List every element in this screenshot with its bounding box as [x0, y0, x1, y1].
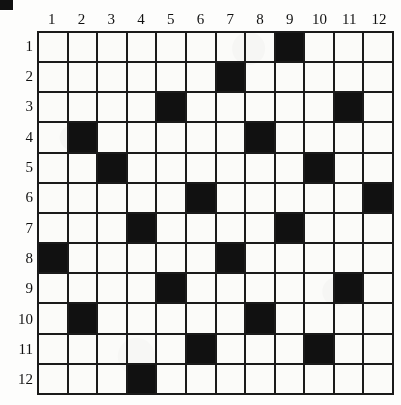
grid-cell-r8-c1[interactable]: [39, 244, 69, 274]
grid-cell-r12-c2[interactable]: [69, 365, 99, 395]
grid-cell-r6-c5[interactable]: [157, 184, 187, 214]
grid-cell-r7-c3[interactable]: [98, 214, 128, 244]
grid-cell-r6-c11[interactable]: [335, 184, 365, 214]
grid-cell-r7-c7[interactable]: [217, 214, 247, 244]
grid-cell-r7-c4[interactable]: [128, 214, 158, 244]
grid-cell-r6-c10[interactable]: [305, 184, 335, 214]
grid-cell-r11-c4[interactable]: [128, 335, 158, 365]
grid-cell-r5-c10[interactable]: [305, 154, 335, 184]
grid-cell-r3-c8[interactable]: [246, 93, 276, 123]
grid-cell-r11-c3[interactable]: [98, 335, 128, 365]
grid-cell-r6-c7[interactable]: [217, 184, 247, 214]
grid-cell-r8-c11[interactable]: [335, 244, 365, 274]
grid-cell-r10-c3[interactable]: [98, 304, 128, 334]
grid-cell-r8-c5[interactable]: [157, 244, 187, 274]
grid-cell-r1-c12[interactable]: [364, 33, 394, 63]
grid-cell-r8-c8[interactable]: [246, 244, 276, 274]
grid-cell-r12-c8[interactable]: [246, 365, 276, 395]
grid-cell-r3-c4[interactable]: [128, 93, 158, 123]
grid-cell-r2-c10[interactable]: [305, 63, 335, 93]
grid-cell-r4-c8[interactable]: [246, 123, 276, 153]
grid-cell-r4-c2[interactable]: [69, 123, 99, 153]
grid-cell-r11-c2[interactable]: [69, 335, 99, 365]
grid-cell-r7-c10[interactable]: [305, 214, 335, 244]
grid-cell-r4-c7[interactable]: [217, 123, 247, 153]
grid-cell-r2-c11[interactable]: [335, 63, 365, 93]
grid-cell-r6-c6[interactable]: [187, 184, 217, 214]
grid-cell-r11-c1[interactable]: [39, 335, 69, 365]
grid-cell-r12-c3[interactable]: [98, 365, 128, 395]
grid-cell-r8-c7[interactable]: [217, 244, 247, 274]
grid-cell-r9-c1[interactable]: [39, 274, 69, 304]
grid-cell-r1-c7[interactable]: [217, 33, 247, 63]
grid-cell-r9-c10[interactable]: [305, 274, 335, 304]
grid-cell-r8-c3[interactable]: [98, 244, 128, 274]
grid-cell-r9-c6[interactable]: [187, 274, 217, 304]
grid-cell-r2-c12[interactable]: [364, 63, 394, 93]
grid-cell-r7-c9[interactable]: [276, 214, 306, 244]
grid-cell-r9-c9[interactable]: [276, 274, 306, 304]
grid-cell-r5-c1[interactable]: [39, 154, 69, 184]
grid-cell-r6-c8[interactable]: [246, 184, 276, 214]
grid-cell-r11-c6[interactable]: [187, 335, 217, 365]
grid-cell-r6-c1[interactable]: [39, 184, 69, 214]
grid-cell-r1-c1[interactable]: [39, 33, 69, 63]
grid-cell-r5-c8[interactable]: [246, 154, 276, 184]
grid-cell-r1-c9[interactable]: [276, 33, 306, 63]
grid-cell-r4-c11[interactable]: [335, 123, 365, 153]
grid-cell-r6-c12[interactable]: [364, 184, 394, 214]
grid-cell-r10-c9[interactable]: [276, 304, 306, 334]
grid-cell-r1-c4[interactable]: [128, 33, 158, 63]
grid-cell-r3-c5[interactable]: [157, 93, 187, 123]
grid-cell-r2-c3[interactable]: [98, 63, 128, 93]
grid-cell-r11-c5[interactable]: [157, 335, 187, 365]
grid-cell-r10-c8[interactable]: [246, 304, 276, 334]
grid-cell-r1-c10[interactable]: [305, 33, 335, 63]
grid-cell-r10-c7[interactable]: [217, 304, 247, 334]
grid-cell-r7-c6[interactable]: [187, 214, 217, 244]
grid-cell-r4-c5[interactable]: [157, 123, 187, 153]
grid-cell-r5-c7[interactable]: [217, 154, 247, 184]
grid-cell-r3-c3[interactable]: [98, 93, 128, 123]
grid-cell-r10-c1[interactable]: [39, 304, 69, 334]
grid-cell-r4-c12[interactable]: [364, 123, 394, 153]
grid-cell-r2-c8[interactable]: [246, 63, 276, 93]
grid-cell-r9-c11[interactable]: [335, 274, 365, 304]
grid-cell-r8-c12[interactable]: [364, 244, 394, 274]
grid-cell-r8-c10[interactable]: [305, 244, 335, 274]
grid-cell-r2-c7[interactable]: [217, 63, 247, 93]
grid-cell-r5-c6[interactable]: [187, 154, 217, 184]
grid-cell-r7-c1[interactable]: [39, 214, 69, 244]
grid-cell-r3-c11[interactable]: [335, 93, 365, 123]
grid-cell-r2-c5[interactable]: [157, 63, 187, 93]
grid-cell-r12-c5[interactable]: [157, 365, 187, 395]
grid-cell-r5-c11[interactable]: [335, 154, 365, 184]
grid-cell-r9-c4[interactable]: [128, 274, 158, 304]
grid-cell-r1-c11[interactable]: [335, 33, 365, 63]
grid-cell-r12-c11[interactable]: [335, 365, 365, 395]
grid-cell-r2-c1[interactable]: [39, 63, 69, 93]
grid-cell-r3-c9[interactable]: [276, 93, 306, 123]
grid-cell-r2-c9[interactable]: [276, 63, 306, 93]
grid-cell-r7-c2[interactable]: [69, 214, 99, 244]
grid-cell-r6-c3[interactable]: [98, 184, 128, 214]
grid-cell-r3-c6[interactable]: [187, 93, 217, 123]
grid-cell-r3-c2[interactable]: [69, 93, 99, 123]
grid-cell-r10-c5[interactable]: [157, 304, 187, 334]
grid-cell-r7-c12[interactable]: [364, 214, 394, 244]
grid-cell-r6-c2[interactable]: [69, 184, 99, 214]
grid-cell-r9-c3[interactable]: [98, 274, 128, 304]
grid-cell-r11-c8[interactable]: [246, 335, 276, 365]
grid-cell-r5-c2[interactable]: [69, 154, 99, 184]
grid-cell-r12-c9[interactable]: [276, 365, 306, 395]
grid-cell-r3-c1[interactable]: [39, 93, 69, 123]
grid-cell-r10-c4[interactable]: [128, 304, 158, 334]
grid-cell-r2-c6[interactable]: [187, 63, 217, 93]
grid-cell-r5-c9[interactable]: [276, 154, 306, 184]
grid-cell-r4-c9[interactable]: [276, 123, 306, 153]
grid-cell-r4-c1[interactable]: [39, 123, 69, 153]
grid-cell-r10-c12[interactable]: [364, 304, 394, 334]
grid-cell-r12-c10[interactable]: [305, 365, 335, 395]
grid-cell-r12-c1[interactable]: [39, 365, 69, 395]
grid-cell-r5-c12[interactable]: [364, 154, 394, 184]
